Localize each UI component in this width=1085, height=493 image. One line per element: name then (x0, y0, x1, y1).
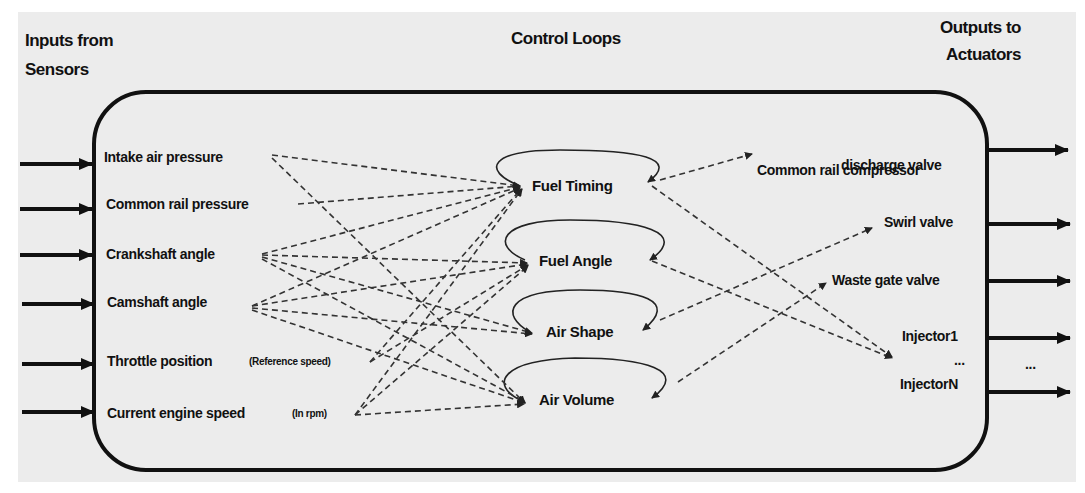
inputs-header-line2: Sensors (25, 60, 89, 79)
input-current-engine-speed: Current engine speed (107, 405, 245, 421)
input-intake-air-pressure: Intake air pressure (104, 149, 223, 165)
input-common-rail-pressure: Common rail pressure (106, 196, 249, 212)
input-crankshaft-angle: Crankshaft angle (106, 246, 215, 262)
inputs-header-line1: Inputs from (25, 31, 113, 50)
outputs-header-line2: Actuators (946, 45, 1021, 64)
output-injector1: Injector1 (902, 328, 958, 344)
control-diagram: Inputs from Sensors Control Loops Output… (0, 0, 1085, 493)
loop-fuel-timing: Fuel Timing (532, 177, 613, 194)
output-waste-gate-valve: Waste gate valve (832, 272, 940, 288)
input-camshaft-angle: Camshaft angle (107, 294, 208, 310)
input-throttle-note: (Reference speed) (249, 356, 331, 367)
input-arrows (20, 164, 94, 412)
loop-air-volume: Air Volume (539, 391, 614, 408)
loop-air-shape: Air Shape (546, 323, 613, 340)
input-throttle-position: Throttle position (107, 353, 212, 369)
output-injector-ellipsis: ... (954, 352, 965, 368)
output-cr-compressor-line2: discharge valve (841, 157, 942, 173)
output-connections (652, 154, 892, 382)
output-injectorN: InjectorN (900, 376, 958, 392)
loop-fuel-angle: Fuel Angle (539, 252, 612, 269)
outputs-ellipsis: ... (1025, 356, 1036, 372)
outputs-header-line1: Outputs to (940, 18, 1021, 37)
input-engine-speed-note: (In rpm) (292, 408, 327, 419)
input-connections (252, 155, 532, 415)
output-swirl-valve: Swirl valve (884, 214, 954, 230)
control-loops-header: Control Loops (511, 29, 621, 48)
